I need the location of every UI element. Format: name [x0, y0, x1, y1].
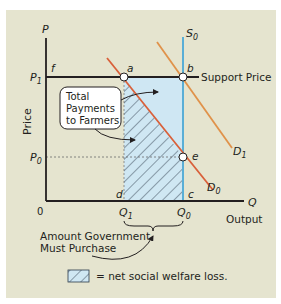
point-b [179, 73, 187, 81]
govt-purchase-line2: Must Purchase [40, 242, 116, 254]
point-a [120, 73, 128, 81]
point-d-label: d [116, 188, 123, 200]
s0-label: S0 [186, 27, 198, 42]
y-axis-label: Price [21, 108, 34, 135]
p1-label: P1 [30, 71, 42, 86]
x-axis-symbol: Q [248, 196, 257, 209]
point-f-label: f [51, 62, 57, 74]
x-axis-label: Output [226, 213, 262, 225]
y-axis-symbol: P [42, 23, 49, 36]
q0-label: Q0 [177, 206, 191, 221]
total-payments-line2: Payments [66, 103, 115, 114]
point-a-label: a [127, 62, 133, 74]
total-payments-line1: Total [65, 91, 89, 102]
legend-text: = net social welfare loss. [96, 270, 228, 282]
point-b-label: b [187, 62, 194, 74]
govt-purchase-line1: Amount Government [40, 230, 150, 242]
point-c-label: c [188, 188, 194, 200]
p0-label: P0 [30, 151, 42, 166]
legend-hatch-pattern [68, 270, 89, 282]
total-payments-line3: to Farmers [66, 115, 119, 126]
support-price-label: Support Price [201, 71, 271, 83]
price-support-diagram: P Price Q Output 0 P1 P0 Support Price Q… [0, 0, 281, 304]
point-e-label: e [192, 150, 198, 162]
d1-label: D1 [233, 145, 247, 160]
origin-label: 0 [37, 206, 43, 217]
point-e [179, 153, 187, 161]
q1-label: Q1 [119, 206, 133, 221]
d0-label: D0 [207, 181, 221, 196]
